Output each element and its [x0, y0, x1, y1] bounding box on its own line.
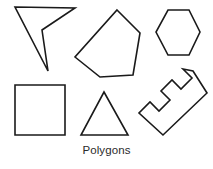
shape-square [15, 85, 65, 135]
shape-comb [139, 69, 207, 135]
shape-triangle [81, 92, 128, 135]
shape-dart [15, 7, 75, 71]
polygons-figure: Polygons [0, 0, 213, 169]
figure-caption: Polygons [0, 143, 213, 157]
shape-hexagon [156, 10, 200, 55]
shape-pentagon [75, 10, 140, 77]
